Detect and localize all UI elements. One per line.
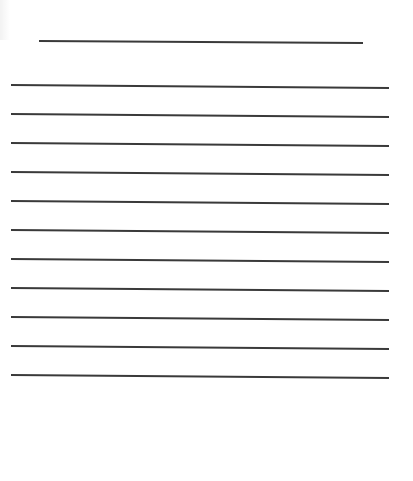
page-edge-shadow xyxy=(0,0,10,40)
writing-line-7 xyxy=(11,258,389,263)
writing-line-8 xyxy=(11,287,389,292)
writing-line-5 xyxy=(11,200,389,205)
writing-line-1 xyxy=(11,84,389,89)
title-line xyxy=(39,40,363,44)
writing-line-9 xyxy=(11,316,389,321)
writing-line-2 xyxy=(11,113,389,118)
writing-line-6 xyxy=(11,229,389,234)
writing-line-10 xyxy=(11,345,389,350)
writing-line-4 xyxy=(11,171,389,176)
lined-paper-page xyxy=(0,0,413,481)
writing-line-11 xyxy=(11,374,389,379)
writing-line-3 xyxy=(11,142,389,147)
